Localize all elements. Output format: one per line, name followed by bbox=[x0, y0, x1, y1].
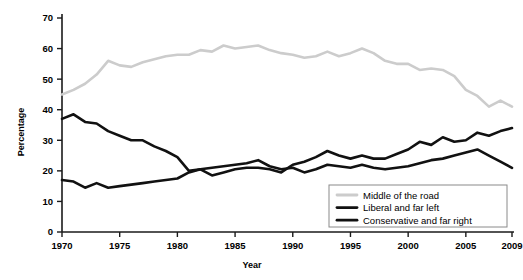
chart-legend: Middle of the roadLiberal and far leftCo… bbox=[329, 185, 507, 227]
y-tick-label: 50 bbox=[42, 74, 53, 85]
legend-label-1: Liberal and far left bbox=[363, 202, 439, 213]
chart-background bbox=[0, 0, 523, 280]
y-tick-label: 40 bbox=[42, 104, 53, 115]
x-tick-label: 2000 bbox=[398, 240, 419, 251]
chart-canvas: 010203040506070 197019751980198519901995… bbox=[0, 0, 523, 280]
x-tick-label: 1975 bbox=[109, 240, 131, 251]
x-tick-label: 1985 bbox=[225, 240, 247, 251]
line-chart-figure: 010203040506070 197019751980198519901995… bbox=[0, 0, 523, 280]
x-tick-label: 1970 bbox=[51, 240, 72, 251]
y-tick-label: 10 bbox=[42, 196, 53, 207]
y-tick-label: 20 bbox=[42, 165, 53, 176]
x-tick-label: 1995 bbox=[340, 240, 362, 251]
y-tick-label: 30 bbox=[42, 135, 53, 146]
y-tick-label: 60 bbox=[42, 43, 53, 54]
x-tick-label: 2005 bbox=[455, 240, 477, 251]
y-tick-label: 70 bbox=[42, 12, 53, 23]
x-tick-label: 1980 bbox=[167, 240, 188, 251]
x-tick-label: 2009 bbox=[501, 240, 522, 251]
x-tick-label: 1990 bbox=[282, 240, 303, 251]
legend-label-0: Middle of the road bbox=[363, 190, 439, 201]
y-tick-label: 0 bbox=[48, 226, 53, 237]
legend-label-2: Conservative and far right bbox=[363, 215, 472, 226]
y-axis-title: Percentage bbox=[16, 108, 26, 157]
x-axis-title: Year bbox=[242, 260, 262, 270]
